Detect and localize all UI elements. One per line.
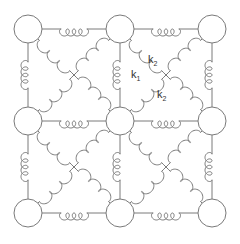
mass-node (106, 107, 134, 135)
mass-node (14, 15, 42, 43)
neighbor-spring (134, 121, 198, 128)
mass-node (198, 15, 226, 43)
neighbor-spring (134, 213, 198, 220)
diagonal-spring (74, 75, 111, 111)
diagonal-spring (166, 75, 203, 111)
mass-node (14, 107, 42, 135)
mass-node (106, 199, 134, 227)
neighbor-spring (42, 29, 106, 36)
label-k2-lower: k2 (157, 88, 167, 102)
diagonal-spring (37, 39, 74, 75)
diagonal-spring (129, 131, 166, 167)
diagonal-spring (38, 167, 74, 204)
diagonal-spring (38, 75, 74, 112)
diagonal-spring (166, 130, 202, 167)
mass-node (106, 15, 134, 43)
mass-node (198, 199, 226, 227)
mass-node (14, 199, 42, 227)
neighbor-spring (42, 121, 106, 128)
labels-layer: k1 k2 k2 (131, 53, 167, 102)
neighbor-spring (205, 135, 212, 199)
diagonal-spring (166, 38, 202, 75)
neighbor-spring (113, 43, 120, 107)
neighbor-spring (205, 43, 212, 107)
neighbor-spring (134, 29, 198, 36)
label-k2-upper: k2 (148, 53, 158, 67)
label-k1: k1 (131, 68, 141, 82)
neighbor-spring (21, 43, 28, 107)
diagonal-spring (74, 130, 110, 167)
neighbor-spring (42, 213, 106, 220)
diagonal-spring (166, 167, 203, 203)
spring-lattice-diagram: k1 k2 k2 (0, 0, 240, 244)
diagonal-spring (74, 167, 111, 203)
diagonal-spring (37, 131, 74, 167)
neighbor-spring (113, 135, 120, 199)
mass-node (198, 107, 226, 135)
diagonal-spring (74, 38, 110, 75)
neighbor-spring (21, 135, 28, 199)
diagonal-spring (130, 167, 166, 204)
